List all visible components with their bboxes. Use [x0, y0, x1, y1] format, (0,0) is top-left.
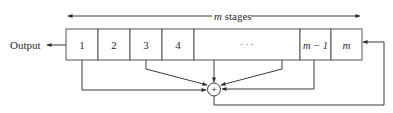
tap-line-cell-1: [82, 60, 206, 90]
shift-register-diagram: m stages Output 1 2 3 4 · · · m − 1 m: [0, 0, 393, 113]
cell-label-1: 1: [79, 39, 85, 51]
tap-line-cell-m-minus-1: [222, 60, 314, 89]
shift-register: 1 2 3 4 · · · m − 1 m: [66, 29, 362, 60]
cell-label-4: 4: [175, 39, 181, 51]
cell-label-3: 3: [143, 39, 149, 51]
cell-label-ellipsis: · · ·: [240, 39, 254, 49]
tap-connections: [82, 60, 314, 90]
adder-plus-icon: +: [211, 84, 217, 95]
modulo-2-adder: +: [208, 83, 221, 96]
tap-line-cell-3: [146, 60, 207, 85]
stages-span-arrow: m stages: [68, 10, 360, 22]
cell-label-m-minus-1: m − 1: [303, 40, 328, 51]
cell-label-2: 2: [111, 39, 117, 51]
stages-label: m stages: [214, 10, 252, 22]
cell-label-m: m: [343, 39, 351, 51]
tap-line-ellipsis-diagonal: [221, 60, 282, 85]
output-label: Output: [10, 39, 41, 51]
